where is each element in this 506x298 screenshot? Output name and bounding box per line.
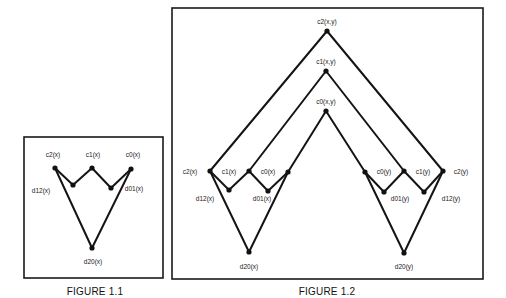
label-c1: c1(x) — [86, 151, 100, 159]
label-d20y: d20(y) — [395, 263, 413, 271]
edge-d12-c1 — [73, 168, 92, 185]
diagram-canvas: c2(x) c1(x) c0(x) d12(x) d01(x) d20(x) F… — [0, 0, 506, 298]
label-c2: c2(x) — [46, 151, 60, 159]
label-d01x: d01(x) — [253, 195, 271, 203]
node-c1xy — [323, 68, 328, 73]
node-c0 — [128, 166, 133, 171]
edge-c2-d12 — [55, 168, 73, 185]
edge-c1xy-c1y — [326, 71, 404, 171]
figure-1-2-labels: c2(x,y) c1(x,y) c0(x,y) c2(x) c1(x) c0(x… — [183, 18, 468, 271]
node-d01x — [265, 188, 270, 193]
label-c0y: c0(y) — [377, 168, 391, 176]
node-d12y — [421, 189, 426, 194]
label-c1x: c1(x) — [222, 168, 236, 176]
node-d20 — [89, 245, 94, 250]
node-d20x — [246, 249, 251, 254]
node-d01y — [381, 189, 386, 194]
edge-c0y-d01y — [365, 172, 384, 192]
edge-c2xy-c2y — [327, 31, 443, 171]
label-c2y: c2(y) — [454, 168, 468, 176]
label-d12: d12(x) — [32, 187, 50, 195]
figure-1-1-frame — [24, 137, 163, 278]
figure-1-1-labels: c2(x) c1(x) c0(x) d12(x) d01(x) d20(x) — [32, 151, 143, 266]
label-c1xy: c1(x,y) — [316, 58, 336, 66]
edge-c0xy-c0x — [288, 111, 326, 172]
label-c0xy: c0(x,y) — [316, 98, 336, 106]
edge-c2y-d20y — [404, 171, 443, 253]
label-d01y: d01(y) — [391, 195, 409, 203]
figure-1-1-caption: FIGURE 1.1 — [67, 286, 124, 297]
label-c2xy: c2(x,y) — [317, 18, 337, 26]
node-d12 — [70, 182, 75, 187]
edge-c1-d01 — [92, 168, 111, 188]
edge-c2xy-c2x — [210, 31, 327, 171]
node-d20y — [401, 250, 406, 255]
edge-c2x-d20x — [210, 171, 249, 252]
edge-c0y-d20y — [365, 172, 404, 253]
node-d01 — [108, 185, 113, 190]
edge-c2-d20 — [55, 168, 92, 248]
node-c1y — [401, 168, 406, 173]
figure-1-2-frame — [172, 8, 483, 279]
figure-1-1-edges — [55, 168, 131, 248]
label-d20x: d20(x) — [240, 263, 258, 271]
label-c0x: c0(x) — [261, 168, 275, 176]
node-c0xy — [323, 108, 328, 113]
figure-1-1: c2(x) c1(x) c0(x) d12(x) d01(x) d20(x) F… — [24, 137, 163, 297]
label-d20: d20(x) — [84, 258, 102, 266]
label-d12y: d12(y) — [442, 195, 460, 203]
label-d01: d01(x) — [125, 185, 143, 193]
edge-c0-d20 — [92, 169, 131, 248]
edge-c0xy-c0y — [326, 111, 365, 172]
label-c1y: c1(y) — [416, 168, 430, 176]
node-c1x — [246, 168, 251, 173]
node-c0x — [285, 169, 290, 174]
edge-c0x-d20x — [249, 172, 288, 252]
label-c2x: c2(x) — [183, 168, 197, 176]
figure-1-2-caption: FIGURE 1.2 — [299, 286, 356, 297]
label-d12x: d12(x) — [196, 195, 214, 203]
node-c2xy — [324, 28, 329, 33]
figure-1-2: c2(x,y) c1(x,y) c0(x,y) c2(x) c1(x) c0(x… — [172, 8, 483, 297]
node-c2y — [440, 168, 445, 173]
node-c2 — [52, 165, 57, 170]
node-d12x — [226, 187, 231, 192]
node-c2x — [207, 168, 212, 173]
edge-c1xy-c1x — [249, 71, 326, 171]
label-c0: c0(x) — [126, 151, 140, 159]
node-c1 — [89, 165, 94, 170]
node-c0y — [362, 169, 367, 174]
